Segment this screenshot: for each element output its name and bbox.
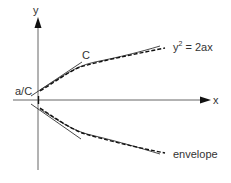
equation-exponent: 2 — [179, 40, 183, 47]
equation-rest: = 2ax — [182, 41, 212, 53]
y-axis-arrow-icon — [35, 17, 42, 28]
envelope-label: envelope — [173, 149, 218, 160]
lower-solid-curve — [40, 109, 160, 154]
equation-label: y2 = 2ax — [173, 42, 213, 53]
x-axis-label: x — [213, 95, 219, 106]
y-axis-label: y — [33, 5, 39, 16]
tangent-label: C — [82, 50, 90, 61]
x-axis-arrow-icon — [200, 97, 211, 104]
equation-base: y — [173, 41, 179, 53]
upper-dashed-parabola — [40, 48, 165, 91]
lower-dashed-parabola — [40, 108, 165, 153]
intercept-label: a/C — [15, 86, 32, 97]
upper-tangent-line — [31, 62, 82, 96]
